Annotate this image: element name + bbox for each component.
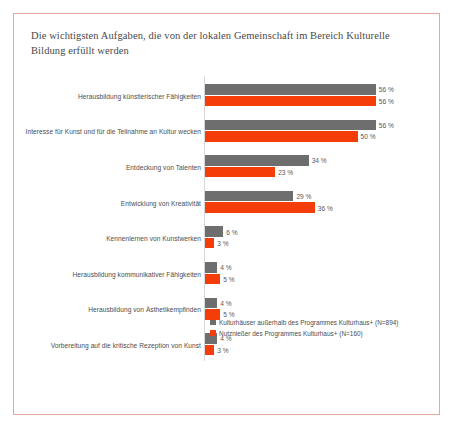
bar-group: Kennenlernen von Kunstwerken6 %3 % <box>14 220 441 256</box>
bar-group: Entdeckung von Talenten34 %23 % <box>14 149 441 185</box>
bar-group: Interesse für Kunst und für die Teilnahm… <box>14 114 441 150</box>
bar-value-label: 29 % <box>293 193 311 200</box>
category-label: Herausbildung kommunikativer Fähigkeiten <box>11 269 201 278</box>
legend-item[interactable]: Nutznießer des Programmes Kulturhaus+ (N… <box>210 330 440 337</box>
bar-series-b[interactable] <box>205 345 214 356</box>
bar-group: Entwicklung von Kreativität29 %36 % <box>14 185 441 221</box>
bar-value-label: 34 % <box>309 157 327 164</box>
bar-series-b[interactable] <box>205 274 220 285</box>
legend-label: Kulturhäuser außerhalb des Programmes Ku… <box>219 319 398 326</box>
bars-wrap: 4 %5 % <box>205 256 441 292</box>
bar-value-label: 4 % <box>217 264 231 271</box>
bar-value-label: 5 % <box>220 311 234 318</box>
bars-wrap: 56 %50 % <box>205 114 441 150</box>
bar-series-a[interactable] <box>205 120 376 131</box>
bar-value-label: 56 % <box>376 97 394 104</box>
chart-legend: Kulturhäuser außerhalb des Programmes Ku… <box>210 319 440 340</box>
bars-wrap: 56 %56 % <box>205 78 441 114</box>
bar-series-a[interactable] <box>205 298 217 309</box>
bar-series-b[interactable] <box>205 202 315 213</box>
bar-group: Herausbildung künstlerischer Fähigkeiten… <box>14 78 441 114</box>
bar-series-a[interactable] <box>205 262 217 273</box>
category-label: Herausbildung von Ästhetikempfinden <box>11 305 201 314</box>
bar-group: Herausbildung kommunikativer Fähigkeiten… <box>14 256 441 292</box>
bar-series-a[interactable] <box>205 191 293 202</box>
bar-series-a[interactable] <box>205 226 223 237</box>
bar-value-label: 3 % <box>214 240 228 247</box>
legend-item[interactable]: Kulturhäuser außerhalb des Programmes Ku… <box>210 319 440 326</box>
bar-series-b[interactable] <box>205 96 376 107</box>
bar-value-label: 4 % <box>217 299 231 306</box>
category-label: Interesse für Kunst und für die Teilnahm… <box>11 127 201 136</box>
bar-series-b[interactable] <box>205 131 358 142</box>
bars-wrap: 6 %3 % <box>205 220 441 256</box>
bar-value-label: 56 % <box>376 121 394 128</box>
bar-value-label: 56 % <box>376 86 394 93</box>
bar-series-a[interactable] <box>205 84 376 95</box>
bar-value-label: 36 % <box>315 204 333 211</box>
bar-series-a[interactable] <box>205 155 309 166</box>
bars-wrap: 34 %23 % <box>205 149 441 185</box>
legend-label: Nutznießer des Programmes Kulturhaus+ (N… <box>219 330 363 337</box>
bar-value-label: 3 % <box>214 346 228 353</box>
bar-value-label: 6 % <box>223 228 237 235</box>
bars-wrap: 29 %36 % <box>205 185 441 221</box>
legend-swatch-icon <box>210 330 216 336</box>
category-label: Entwicklung von Kreativität <box>11 198 201 207</box>
bar-series-b[interactable] <box>205 238 214 249</box>
category-label: Entdeckung von Talenten <box>11 162 201 171</box>
bar-value-label: 23 % <box>275 168 293 175</box>
legend-swatch-icon <box>210 320 216 326</box>
category-label: Vorbereitung auf die kritische Rezeption… <box>11 340 201 349</box>
chart-title: Die wichtigsten Aufgaben, die von der lo… <box>31 28 423 58</box>
bar-series-b[interactable] <box>205 167 275 178</box>
chart-card: Die wichtigsten Aufgaben, die von der lo… <box>13 13 440 415</box>
bar-value-label: 5 % <box>220 275 234 282</box>
category-label: Herausbildung künstlerischer Fähigkeiten <box>11 91 201 100</box>
bar-value-label: 50 % <box>358 133 376 140</box>
category-label: Kennenlernen von Kunstwerken <box>11 234 201 243</box>
